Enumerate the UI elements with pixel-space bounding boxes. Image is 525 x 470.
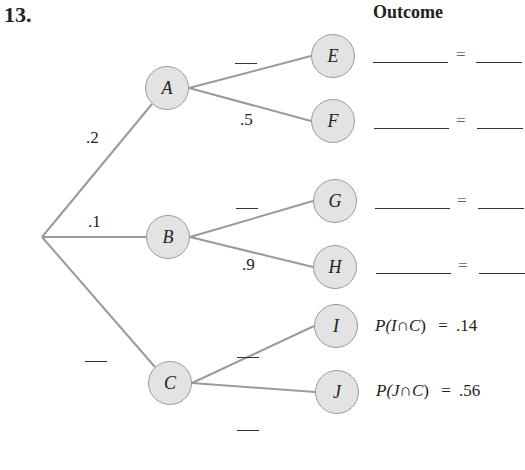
edge-B-G	[190, 201, 313, 237]
formula-given-J: C	[412, 381, 423, 400]
outcome-blank-value-F	[477, 128, 523, 129]
edge-A-E	[189, 56, 311, 88]
outcome-blank-value-G	[478, 208, 524, 209]
node-E: E	[311, 34, 355, 78]
equals-sign-H: =	[458, 256, 468, 276]
node-C: C	[148, 361, 192, 405]
prob-blank-A-E	[235, 63, 257, 64]
prob-label-root-B: .1	[88, 212, 101, 232]
node-H: H	[313, 245, 357, 289]
formula-prefix-J: P(	[376, 381, 392, 400]
outcome-blank-expression-G	[375, 208, 450, 209]
outcome-blank-expression-F	[374, 128, 449, 129]
outcome-blank-expression-H	[376, 273, 451, 274]
equals-sign-J: =	[441, 381, 451, 400]
formula-event-J: J	[392, 381, 400, 400]
equals-sign-I: =	[438, 316, 448, 335]
equals-sign-G: =	[457, 191, 467, 211]
node-I: I	[314, 304, 358, 348]
formula-prefix-I: P(	[375, 316, 391, 335]
outcome-value-I: .14	[456, 316, 477, 335]
prob-blank-root-C	[85, 361, 107, 362]
outcome-formula-I: P(I∩C) = .14	[375, 316, 477, 336]
node-A: A	[145, 66, 189, 110]
equals-sign-E: =	[456, 45, 466, 65]
outcome-blank-expression-E	[373, 62, 448, 63]
outcome-blank-value-E	[476, 62, 522, 63]
intersection-symbol-I: ∩	[397, 316, 409, 335]
formula-given-I: C	[409, 316, 420, 335]
node-B: B	[146, 215, 190, 259]
prob-blank-C-J	[237, 430, 259, 431]
formula-suffix-J: )	[423, 381, 429, 400]
node-J: J	[315, 370, 359, 414]
edge-root-C	[42, 237, 155, 367]
formula-suffix-I: )	[420, 316, 426, 335]
edge-C-J	[192, 383, 315, 392]
prob-blank-B-G	[236, 208, 258, 209]
prob-label-root-A: .2	[86, 128, 99, 148]
node-F: F	[311, 99, 355, 143]
edge-C-I	[192, 326, 314, 383]
prob-label-B-H: .9	[242, 255, 255, 275]
outcome-value-J: .56	[459, 381, 480, 400]
node-G: G	[313, 179, 357, 223]
outcome-formula-J: P(J∩C) = .56	[376, 381, 480, 401]
prob-blank-C-I	[237, 357, 259, 358]
intersection-symbol-J: ∩	[400, 381, 412, 400]
equals-sign-F: =	[456, 111, 466, 131]
prob-label-A-F: .5	[240, 110, 253, 130]
outcome-blank-value-H	[479, 273, 525, 274]
